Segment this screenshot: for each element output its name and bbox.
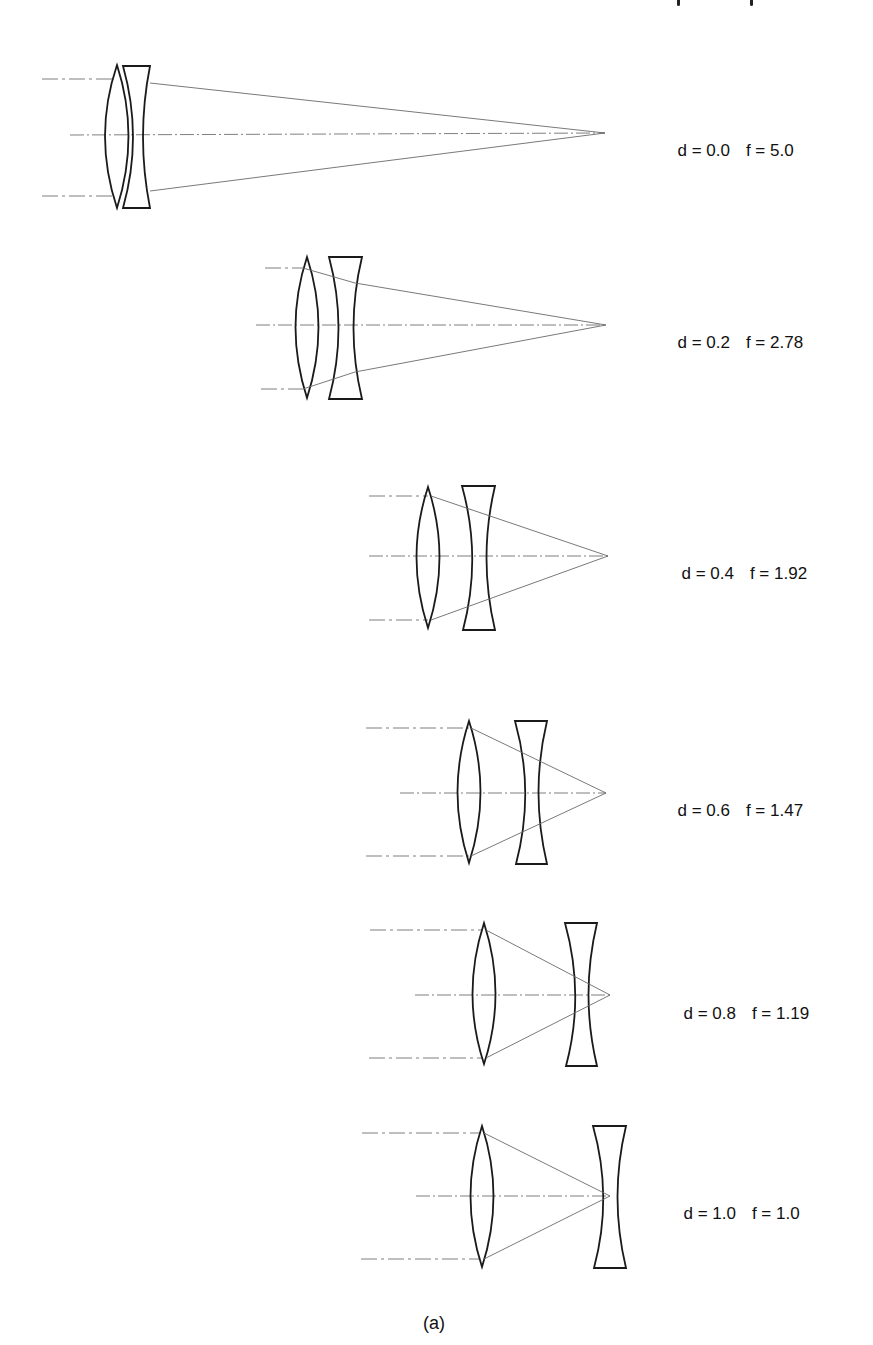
- panel-2-label: d = 0.2f = 2.78: [668, 313, 803, 353]
- f-value: f = 1.92: [750, 564, 807, 583]
- convex-lens: [105, 65, 129, 208]
- concave-lens: [329, 257, 362, 399]
- panel-1-lens-system: [42, 65, 605, 208]
- figure-caption: (a): [423, 1313, 445, 1334]
- d-value: d = 1.0: [683, 1204, 735, 1223]
- convex-lens: [417, 487, 440, 628]
- convex-lens: [471, 1126, 494, 1267]
- convex-lens: [458, 721, 481, 863]
- f-value: f = 2.78: [746, 333, 803, 352]
- concave-lens: [593, 1126, 626, 1268]
- concave-lens: [123, 66, 150, 208]
- panel-2-lens-system: [256, 257, 606, 399]
- panel-3-label: d = 0.4f = 1.92: [672, 544, 807, 584]
- d-value: d = 0.6: [677, 801, 729, 820]
- f-value: f = 1.0: [752, 1204, 800, 1223]
- panel-4-lens-system: [366, 721, 606, 864]
- concave-lens: [565, 923, 597, 1066]
- panel-6-label: d = 1.0f = 1.0: [674, 1184, 800, 1224]
- panel-3-lens-system: [369, 486, 608, 630]
- convex-lens: [473, 923, 496, 1064]
- f-value: f = 1.47: [746, 801, 803, 820]
- panel-5-lens-system: [369, 923, 610, 1066]
- concave-lens: [462, 486, 495, 630]
- panel-1-label: d = 0.0f = 5.0: [668, 121, 794, 161]
- f-value: f = 1.19: [752, 1004, 809, 1023]
- d-value: d = 0.8: [683, 1004, 735, 1023]
- panel-6-lens-system: [361, 1126, 626, 1268]
- convex-lens: [296, 257, 319, 398]
- panel-5-label: d = 0.8f = 1.19: [674, 984, 809, 1024]
- d-value: d = 0.0: [677, 141, 729, 160]
- concave-lens: [515, 721, 547, 864]
- lens-system-diagram: [0, 0, 873, 1345]
- panel-4-label: d = 0.6f = 1.47: [668, 781, 803, 821]
- f-value: f = 5.0: [746, 141, 794, 160]
- d-value: d = 0.4: [681, 564, 733, 583]
- d-value: d = 0.2: [677, 333, 729, 352]
